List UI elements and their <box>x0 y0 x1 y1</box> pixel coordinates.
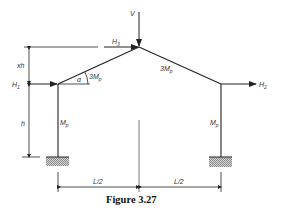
left-fixed-support <box>46 157 69 166</box>
h1-label: H1 <box>12 81 20 90</box>
column-left-moment-label: Mp <box>60 119 69 128</box>
alpha-arc <box>85 72 88 84</box>
span-right-label: L/2 <box>174 178 184 185</box>
h-label: h <box>21 120 25 127</box>
h2-label: H2 <box>259 81 267 90</box>
column-right-moment-label: Mp <box>210 119 219 128</box>
span-left-label: L/2 <box>93 178 103 185</box>
right-rafter <box>139 47 221 84</box>
right-fixed-support <box>209 157 232 167</box>
frame <box>58 47 221 157</box>
rafter-left-moment-label: 3Mp <box>89 73 102 82</box>
figure-caption: Figure 3.27 <box>106 194 157 205</box>
rafter-right-moment-label: 3Mp <box>160 65 173 74</box>
xh-label: xh <box>16 62 25 69</box>
h3-label: H3 <box>112 38 120 47</box>
v-label: V <box>130 10 136 17</box>
alpha-label: α <box>77 76 82 83</box>
portal-frame-diagram: V H3 H1 H2 xh h α 3Mp 3Mp Mp Mp L/2 L/2 … <box>0 0 281 213</box>
